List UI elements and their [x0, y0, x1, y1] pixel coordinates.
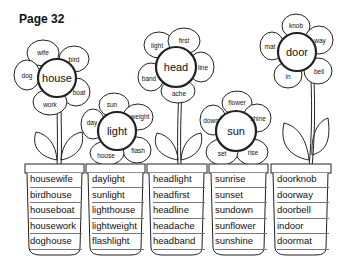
compound-word: houseboat [30, 203, 82, 219]
compound-word: sunflower [215, 219, 267, 235]
petal-label: down [203, 117, 219, 124]
petal-label: ache [172, 90, 186, 97]
flower-center-label: head [164, 61, 188, 73]
petal-label: way [314, 37, 326, 44]
petal-label: knob [289, 22, 303, 29]
compound-word: headline [153, 203, 205, 219]
petal-label: boat [73, 89, 86, 96]
flower-center-label: house [42, 72, 72, 84]
flower-center-label: light [107, 125, 127, 137]
compound-word: doorway [277, 188, 329, 204]
petal-label: in [285, 73, 290, 80]
compound-word: doghouse [30, 234, 82, 250]
compound-word: indoor [277, 219, 329, 235]
pot-head-word-list: headlight headfirst headline headache he… [153, 172, 209, 250]
compound-word: doorbell [277, 203, 329, 219]
compound-word: headfirst [153, 188, 205, 204]
compound-word: lightweight [92, 219, 144, 235]
pot-light-word-list: daylight sunlight lighthouse lightweight… [92, 172, 148, 250]
compound-word: sunrise [215, 172, 267, 188]
petal-label: weight [131, 113, 150, 120]
petal-label: sun [107, 101, 117, 108]
petal-label: flower [228, 99, 245, 106]
petal-label: rise [248, 149, 258, 156]
compound-word: headlight [153, 172, 205, 188]
flower-center-label: door [286, 46, 308, 58]
petal-label: wife [37, 49, 49, 56]
petal-label: dog [22, 72, 33, 79]
compound-word: housework [30, 219, 82, 235]
petal-label: set [218, 150, 227, 157]
compound-word: housewife [30, 172, 82, 188]
petal-label: first [179, 37, 189, 44]
petal-label: flash [131, 147, 145, 154]
petal-label: work [43, 101, 57, 108]
petal-label: band [142, 75, 156, 82]
petal-label: shine [250, 115, 266, 122]
petal-label: line [198, 64, 208, 71]
petal-label: light [151, 42, 163, 49]
compound-word: lighthouse [92, 203, 144, 219]
petal-label: bell [314, 68, 324, 75]
pot-door-word-list: doorknob doorway doorbell indoor doormat [277, 172, 333, 250]
compound-word: doorknob [277, 172, 329, 188]
pot-house-word-list: housewife birdhouse houseboat housework … [30, 172, 86, 250]
compound-word: sunlight [92, 188, 144, 204]
petal-label: bird [69, 56, 80, 63]
compound-word: daylight [92, 172, 144, 188]
petal-label: day [87, 119, 97, 126]
compound-word: birdhouse [30, 188, 82, 204]
pot-sun-word-list: sunrise sunset sundown sunflower sunshin… [215, 172, 271, 250]
compound-word: sunshine [215, 234, 267, 250]
compound-word: doormat [277, 234, 329, 250]
compound-word: headache [153, 219, 205, 235]
compound-word: headband [153, 234, 205, 250]
compound-word: sundown [215, 203, 267, 219]
petal-label: mat [265, 43, 276, 50]
petal-label: house [97, 152, 115, 159]
flower-center-label: sun [227, 125, 245, 137]
compound-word: flashlight [92, 234, 144, 250]
compound-word: sunset [215, 188, 267, 204]
